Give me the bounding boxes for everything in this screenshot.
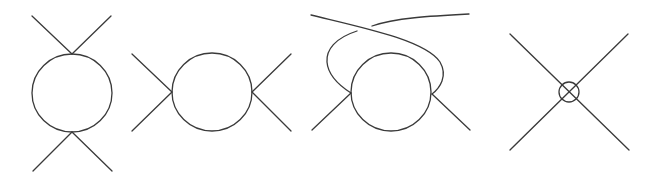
leg-left-bottom	[132, 92, 172, 131]
diagram-2	[132, 53, 291, 131]
crossed-leg-right	[311, 15, 443, 94]
diagram-3	[311, 14, 470, 131]
crossed-leg-left-upper	[372, 14, 469, 26]
leg-top-left	[32, 16, 72, 54]
leg-bottom-left	[312, 93, 351, 130]
loop-circle	[32, 54, 112, 132]
leg-bottom-right	[72, 132, 112, 171]
leg-top-right	[72, 16, 111, 54]
loop-circle	[351, 53, 431, 131]
leg-left-top	[132, 54, 172, 92]
loop-circle	[172, 53, 252, 131]
diagram-1	[32, 16, 112, 171]
diagram-4	[510, 34, 629, 150]
leg-right-bottom	[252, 92, 291, 131]
leg-bottom-left	[33, 132, 72, 171]
leg-right-top	[252, 54, 291, 92]
diagram-canvas	[0, 0, 652, 174]
leg-bottom-right	[432, 94, 470, 130]
